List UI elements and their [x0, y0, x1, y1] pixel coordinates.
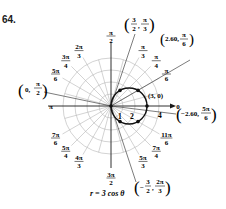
svg-text:3: 3 — [141, 162, 145, 170]
plotted-point — [145, 104, 149, 108]
svg-text:6: 6 — [54, 139, 58, 147]
svg-text:π: π — [165, 67, 169, 75]
svg-text:11π: 11π — [161, 131, 172, 139]
angle-label: π4 — [152, 53, 161, 69]
svg-text:2: 2 — [146, 187, 150, 195]
angle-label: 5π3 — [139, 154, 148, 171]
svg-text:3: 3 — [158, 187, 162, 195]
svg-text:π: π — [49, 103, 53, 111]
svg-text:2: 2 — [132, 25, 136, 33]
plotted-point — [136, 89, 140, 93]
radial-tick-4: 4 — [158, 111, 162, 120]
svg-text:6: 6 — [165, 75, 169, 83]
svg-text:2π: 2π — [75, 43, 83, 51]
svg-text:6: 6 — [204, 114, 208, 122]
angle-label: 3π4 — [61, 53, 70, 69]
svg-text:2π: 2π — [156, 178, 164, 186]
equation-caption: r = 3 cos θ — [90, 189, 125, 198]
angle-label: π — [49, 103, 53, 111]
svg-text:): ) — [149, 15, 155, 34]
angle-label: 4π3 — [75, 154, 84, 171]
svg-text:π: π — [154, 53, 158, 61]
callout-2.60-pi-6: ( 2.60, π 6 ) — [160, 31, 194, 48]
svg-text:3: 3 — [143, 25, 147, 33]
plotted-point — [109, 104, 113, 108]
svg-text:π: π — [109, 29, 113, 37]
svg-text:4: 4 — [155, 152, 159, 160]
svg-text:,: , — [138, 22, 140, 30]
svg-text:3: 3 — [77, 162, 81, 170]
angle-label: π3 — [139, 43, 148, 60]
angle-label: 11π6 — [160, 131, 172, 148]
callout-3-2-pi-3: ( 3 2 , π 3 ) — [124, 15, 155, 34]
svg-text:2.60,: 2.60, — [165, 35, 179, 43]
grid-spoke — [99, 106, 111, 152]
angle-label: π6 — [162, 67, 171, 84]
grid-spoke — [65, 94, 111, 106]
angle-label: 7π6 — [51, 131, 60, 148]
svg-text:2: 2 — [109, 37, 113, 45]
svg-text:π: π — [143, 16, 147, 24]
grid-spoke — [65, 106, 111, 118]
svg-text:3: 3 — [141, 52, 145, 60]
svg-text:): ) — [165, 178, 171, 197]
svg-text:5π: 5π — [62, 144, 70, 152]
svg-text:−: − — [140, 184, 144, 192]
svg-text:3π: 3π — [107, 171, 115, 179]
svg-text:π: π — [182, 31, 186, 39]
svg-text:5π: 5π — [202, 105, 210, 113]
svg-text:3: 3 — [146, 178, 150, 186]
plotted-point — [118, 89, 122, 93]
callout-0-pi-2: ( 0, π 2 ) — [18, 80, 48, 100]
grid-spoke — [99, 60, 111, 106]
svg-text:3: 3 — [77, 52, 81, 60]
angle-label: π2 — [107, 29, 116, 46]
svg-text:3π: 3π — [62, 53, 70, 61]
svg-text:−2.60,: −2.60, — [181, 110, 199, 118]
svg-text:): ) — [189, 31, 194, 48]
svg-text:7π: 7π — [52, 131, 60, 139]
angle-label: 7π4 — [152, 144, 161, 161]
angle-label: 5π4 — [61, 144, 70, 161]
angle-label: 2π3 — [75, 43, 84, 60]
svg-text:6: 6 — [54, 75, 58, 83]
svg-text:7π: 7π — [153, 144, 161, 152]
callout-neg3-2-2pi-3: ( − 3 2 , 2π 3 ) — [134, 178, 171, 197]
svg-text:4: 4 — [64, 62, 68, 70]
angle-label: 3π2 — [107, 171, 116, 188]
angle-label: 5π6 — [51, 67, 60, 84]
svg-text:5π: 5π — [52, 67, 60, 75]
radial-tick-2: 2 — [130, 112, 134, 121]
polar-graph: π2π3π4π602π33π45π6π7π65π44π33π25π37π411π… — [0, 0, 226, 209]
svg-text:2: 2 — [109, 179, 113, 187]
callout-3-0: (3, 0) — [148, 92, 164, 100]
svg-text:4π: 4π — [75, 154, 83, 162]
angle-labels: π2π3π4π602π33π45π6π7π65π44π33π25π37π411π… — [49, 29, 180, 188]
svg-text:2: 2 — [36, 89, 40, 97]
svg-text:5π: 5π — [139, 154, 147, 162]
svg-text:6: 6 — [182, 40, 186, 48]
plotted-point — [136, 120, 140, 124]
callout-neg2.60-5pi-6: ( −2.60, 5π 6 ) — [176, 105, 217, 124]
svg-text:π: π — [141, 43, 145, 51]
svg-text:0,: 0, — [25, 86, 31, 94]
svg-text:): ) — [42, 81, 48, 100]
svg-text:(: ( — [124, 15, 130, 34]
svg-text:3: 3 — [132, 16, 136, 24]
svg-text:4: 4 — [155, 62, 159, 70]
svg-text:π: π — [36, 80, 40, 88]
svg-text:6: 6 — [165, 139, 169, 147]
svg-text:(: ( — [18, 81, 24, 100]
radial-tick-1: 1 — [118, 112, 122, 121]
svg-text:): ) — [211, 105, 217, 124]
svg-text:,: , — [152, 184, 154, 192]
svg-text:4: 4 — [64, 152, 68, 160]
